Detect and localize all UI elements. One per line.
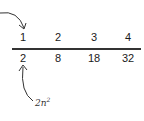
bottom-term-4: 32: [118, 52, 138, 64]
bottom-term-1: 2: [13, 52, 33, 64]
top-term-1: 1: [13, 31, 33, 43]
divider-line: [12, 48, 141, 50]
top-term-2: 2: [48, 31, 68, 43]
top-term-4: 4: [118, 31, 138, 43]
top-term-3: 3: [84, 31, 104, 43]
bottom-term-2: 8: [48, 52, 68, 64]
curved-arrow-from-formula: [22, 67, 33, 101]
bottom-term-3: 18: [84, 52, 104, 64]
formula-label: 2n2: [35, 96, 50, 108]
